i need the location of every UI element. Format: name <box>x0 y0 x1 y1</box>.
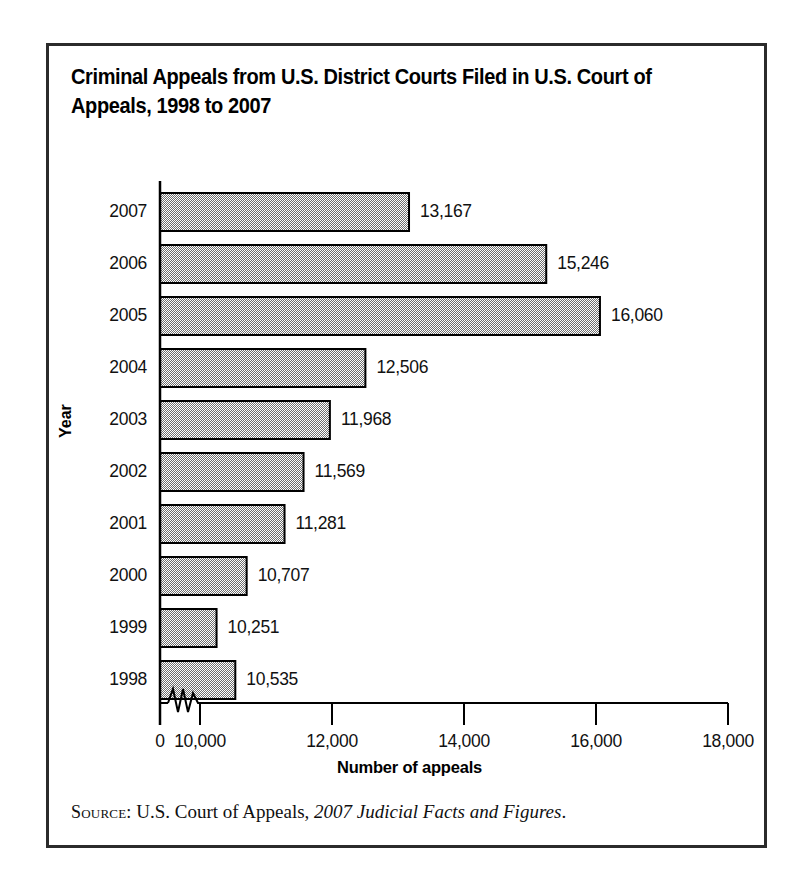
y-axis-tick-label: 2005 <box>79 305 147 326</box>
bar-value-label: 11,968 <box>341 409 391 430</box>
bar-value-label: 12,506 <box>376 357 428 378</box>
x-axis-title: Number of appeals <box>49 758 770 777</box>
bar-series <box>160 193 600 699</box>
bar-value-label: 16,060 <box>611 305 663 326</box>
bar <box>160 193 409 231</box>
bar <box>160 557 247 595</box>
bar-value-label: 15,246 <box>557 253 609 274</box>
bar-value-label: 10,251 <box>228 617 280 638</box>
bar-value-label: 10,707 <box>258 565 310 586</box>
bar-value-label: 10,535 <box>246 669 298 690</box>
plot-area: Year Number of appeals 20072006200520042… <box>49 46 770 851</box>
figure-frame: Criminal Appeals from U.S. District Cour… <box>46 43 767 848</box>
bar <box>160 401 330 439</box>
y-axis-tick-label: 1998 <box>79 669 147 690</box>
bar-value-label: 11,281 <box>296 513 346 534</box>
bar-value-label: 11,569 <box>315 461 365 482</box>
bar <box>160 453 304 491</box>
source-publisher: U.S. Court of Appeals, <box>131 801 314 822</box>
y-axis-tick-label: 2002 <box>79 461 147 482</box>
source-period: . <box>561 801 566 822</box>
y-axis-tick-label: 2006 <box>79 253 147 274</box>
y-axis-tick-label: 1999 <box>79 617 147 638</box>
bar <box>160 505 285 543</box>
source-title: 2007 Judicial Facts and Figures <box>314 801 561 822</box>
y-axis-tick-label: 2000 <box>79 565 147 586</box>
source-kicker: Source: <box>71 802 131 822</box>
y-axis-tick-label: 2007 <box>79 201 147 222</box>
bar <box>160 609 217 647</box>
x-axis-tick-label: 10,000 <box>174 731 226 752</box>
bar-value-label: 13,167 <box>420 201 472 222</box>
y-axis-title: Year <box>57 404 75 438</box>
y-axis-tick-label: 2001 <box>79 513 147 534</box>
y-axis-tick-label: 2003 <box>79 409 147 430</box>
x-axis-tick-label: 18,000 <box>702 731 754 752</box>
source-note: Source: U.S. Court of Appeals, 2007 Judi… <box>71 801 741 823</box>
bar <box>160 297 600 335</box>
x-axis-tick-label: 14,000 <box>438 731 490 752</box>
bar <box>160 245 546 283</box>
x-axis-tick-label: 12,000 <box>306 731 358 752</box>
x-axis-tick-label: 16,000 <box>570 731 622 752</box>
bar <box>160 349 365 387</box>
x-axis-tick-label: 0 <box>155 731 164 752</box>
y-axis-tick-label: 2004 <box>79 357 147 378</box>
